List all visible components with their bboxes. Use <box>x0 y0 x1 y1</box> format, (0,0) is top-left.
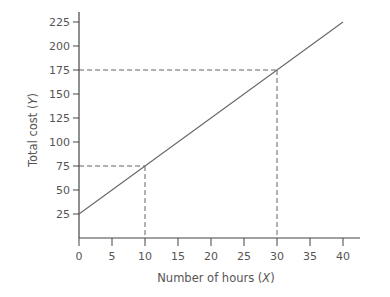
x-tick-label: 0 <box>76 250 83 263</box>
series-lines <box>79 22 343 214</box>
y-tick-label: 150 <box>49 88 70 101</box>
dashed-guides <box>79 70 277 238</box>
chart-canvas: 255075100125150175200225 051015202530354… <box>0 0 390 297</box>
x-tick-label: 15 <box>171 250 185 263</box>
x-axis-label: Number of hours (X) <box>157 271 274 285</box>
y-tick-label: 200 <box>49 40 70 53</box>
cost-line-chart: 255075100125150175200225 051015202530354… <box>0 0 390 297</box>
x-tick-label: 25 <box>237 250 251 263</box>
x-tick-label: 40 <box>336 250 350 263</box>
y-tick-label: 50 <box>56 184 70 197</box>
x-tick-label: 5 <box>109 250 116 263</box>
y-tick-label: 175 <box>49 64 70 77</box>
y-tick-label: 25 <box>56 208 70 221</box>
y-axis-label: Total cost (Y) <box>26 93 40 168</box>
x-tick-label: 30 <box>270 250 284 263</box>
y-tick-label: 100 <box>49 136 70 149</box>
x-axis-ticks: 0510152025303540 <box>76 238 351 263</box>
x-tick-label: 10 <box>138 250 152 263</box>
y-axis-ticks: 255075100125150175200225 <box>49 16 79 221</box>
x-tick-label: 35 <box>303 250 317 263</box>
cost-line <box>79 22 343 214</box>
y-tick-label: 75 <box>56 160 70 173</box>
y-tick-label: 225 <box>49 16 70 29</box>
y-tick-label: 125 <box>49 112 70 125</box>
x-tick-label: 20 <box>204 250 218 263</box>
axes <box>79 12 360 238</box>
